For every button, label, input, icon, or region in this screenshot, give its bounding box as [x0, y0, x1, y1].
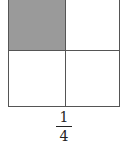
unshaded-cell	[9, 51, 65, 106]
fraction-denominator: 4	[54, 129, 74, 143]
fraction-bar	[56, 126, 72, 127]
grid-divider-horizontal	[9, 50, 119, 51]
shaded-cell	[9, 0, 65, 50]
grid-divider-vertical	[65, 0, 66, 106]
unshaded-cell	[66, 0, 121, 50]
fraction-label: 1 4	[54, 110, 74, 143]
fraction-grid	[8, 0, 120, 107]
fraction-numerator: 1	[54, 110, 74, 124]
unshaded-cell	[66, 51, 121, 106]
